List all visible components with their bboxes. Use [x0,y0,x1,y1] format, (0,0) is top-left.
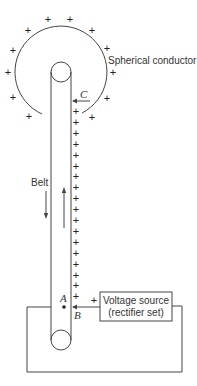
down-arrow-icon [44,191,48,219]
belt-charges: ++++++++++++++++++ [73,105,79,302]
belt-charge: + [73,290,79,302]
label-belt: Belt [31,177,48,188]
sphere-charge: + [89,111,95,123]
sphere-charges: ++++++++++++ [5,13,116,123]
label-c: C [80,88,88,100]
label-voltage-source: Voltage source [103,295,170,306]
label-a: A [59,292,67,304]
sphere-charge: + [89,24,95,36]
van-de-graaff-diagram: ++++++++++++ ++++++++++++++++++ C Spheri… [0,0,197,386]
sphere-charge: + [67,13,73,25]
spherical-conductor [15,26,107,114]
sphere-charge: + [104,42,110,54]
sphere-charge: + [5,66,11,78]
sphere-charge: + [26,110,32,122]
up-arrow-icon [62,187,66,228]
point-a-dot [62,305,66,309]
sphere-charge: + [10,44,16,56]
sphere-charge: + [10,91,16,103]
sphere-charge: + [45,13,51,25]
label-rectifier-set: (rectifier set) [108,307,164,318]
top-pulley [51,62,71,82]
sphere-charge: + [25,24,31,36]
label-spherical-conductor: Spherical conductor [108,55,197,66]
source-positive-terminal: + [91,294,97,306]
bottom-pulley [51,330,71,350]
label-b: B [74,309,81,321]
sphere-charge: + [110,66,116,78]
sphere-charge: + [104,92,110,104]
